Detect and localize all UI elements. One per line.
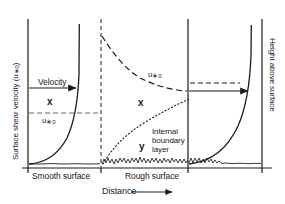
velocity-profile-smooth-curve: [29, 24, 79, 164]
section-label-rough: Rough surface: [125, 172, 179, 181]
y-axis-left-label-text: Surface shear velocity (u∗0): [11, 63, 20, 160]
ibl-line-2: boundary: [152, 136, 185, 145]
velocity-label-text: Velocity: [38, 77, 67, 87]
section-label-rough-text: Rough surface: [125, 171, 179, 181]
marker-x-mid: x: [138, 98, 143, 107]
internal-boundary-layer-label: Internal boundary layer: [152, 127, 185, 154]
rough-ground-line-right: [189, 158, 261, 164]
rough-surface-ground: [102, 157, 261, 164]
figure-root: Surface shear velocity (u∗0) Height abov…: [0, 0, 285, 204]
ibl-line-1: Internal: [152, 127, 185, 136]
u-star-decay-curve: [102, 36, 187, 91]
marker-y-mid: y: [139, 142, 144, 151]
marker-x-mid-text: x: [138, 97, 143, 108]
section-label-smooth-text: Smooth surface: [32, 171, 90, 181]
u-star-label-smooth-text: u∗0: [42, 116, 56, 125]
rough-ground-line-mid: [102, 157, 188, 164]
ibl-line-3: layer: [152, 145, 185, 154]
y-axis-right-label: Height above surface: [268, 38, 277, 112]
x-axis-label: Distance: [102, 187, 136, 196]
section-label-smooth: Smooth surface: [32, 172, 90, 181]
velocity-profile-rough-curve: [189, 25, 251, 164]
y-axis-left-label: Surface shear velocity (u∗0): [11, 63, 22, 160]
y-axis-right-label-text: Height above surface: [268, 38, 277, 112]
u-star-label-mid-text: u∗0: [148, 70, 162, 79]
u-star-label-smooth: u∗0: [42, 116, 56, 127]
marker-x-smooth: x: [47, 97, 52, 106]
x-axis-label-text: Distance: [102, 186, 136, 196]
velocity-label: Velocity: [38, 78, 67, 87]
u-star-label-mid: u∗0: [148, 70, 162, 81]
marker-x-smooth-text: x: [47, 96, 52, 107]
marker-y-mid-text: y: [139, 141, 144, 152]
